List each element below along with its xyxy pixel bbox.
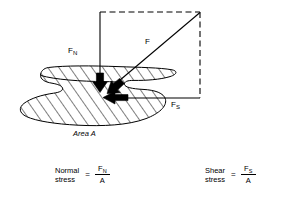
shear-stress-equals: = bbox=[231, 170, 236, 180]
shear-force-label: FS bbox=[171, 101, 180, 109]
normal-stress-formula: Normal stress = FN A bbox=[55, 164, 110, 186]
shear-stress-numerator: FS bbox=[241, 164, 255, 174]
area-label: Area A bbox=[73, 130, 96, 138]
normal-stress-name: Normal stress bbox=[55, 166, 79, 185]
normal-stress-numerator: FN bbox=[95, 164, 110, 174]
shear-stress-denominator: A bbox=[243, 175, 254, 185]
shear-stress-formula: Shear stress = FS A bbox=[205, 164, 256, 186]
shear-stress-fraction: FS A bbox=[241, 164, 256, 186]
resultant-force-label: F bbox=[145, 38, 150, 46]
normal-stress-denominator: A bbox=[97, 175, 108, 185]
figure-canvas: FN F FS Area A Normal stress = FN A Shea… bbox=[0, 0, 289, 203]
normal-stress-fraction: FN A bbox=[95, 164, 110, 186]
normal-stress-equals: = bbox=[85, 170, 90, 180]
normal-force-label: FN bbox=[68, 47, 77, 55]
shear-stress-name: Shear stress bbox=[205, 166, 225, 185]
